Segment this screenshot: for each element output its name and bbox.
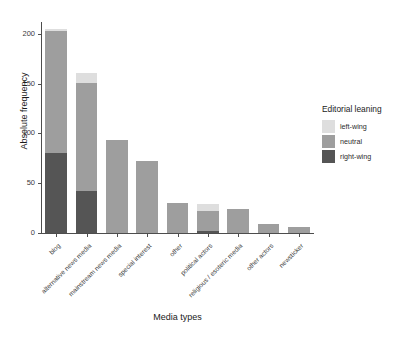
bar-segment-left-wing[interactable]	[76, 73, 98, 83]
legend-item[interactable]: left-wing	[322, 119, 408, 133]
y-axis-title: Absolute frequency	[19, 51, 29, 171]
bar-segment-neutral[interactable]	[136, 161, 158, 233]
legend-label: right-wing	[340, 152, 371, 161]
legend-swatch	[322, 135, 335, 148]
x-tick-mark	[269, 234, 270, 237]
bar-segment-right-wing[interactable]	[45, 153, 67, 233]
legend-items: left-wingneutralright-wing	[322, 119, 408, 163]
figure: 050100150200 Absolute frequency Media ty…	[0, 0, 409, 347]
bar-series-container	[41, 22, 314, 233]
legend-label: left-wing	[340, 122, 367, 131]
bar-segment-left-wing[interactable]	[45, 29, 67, 31]
bar-segment-neutral[interactable]	[167, 203, 189, 233]
bar-segment-neutral[interactable]	[227, 209, 249, 233]
bar-segment-neutral[interactable]	[197, 211, 219, 231]
x-tick-mark	[147, 234, 148, 237]
y-tick-mark	[38, 233, 41, 234]
x-tick-mark	[56, 234, 57, 237]
x-tick-mark	[299, 234, 300, 237]
legend: Editorial leaning left-wingneutralright-…	[322, 104, 408, 164]
bar-segment-right-wing[interactable]	[76, 191, 98, 233]
bar-stack[interactable]	[45, 22, 67, 233]
bar-segment-neutral[interactable]	[45, 31, 67, 153]
bar-stack[interactable]	[167, 22, 189, 233]
bar-stack[interactable]	[258, 22, 280, 233]
bar-segment-neutral[interactable]	[288, 227, 310, 233]
y-tick-label: 0	[9, 229, 35, 237]
y-tick-label: 50	[9, 179, 35, 187]
x-tick-mark	[238, 234, 239, 237]
legend-item[interactable]: neutral	[322, 134, 408, 148]
legend-swatch	[322, 120, 335, 133]
x-tick-mark	[117, 234, 118, 237]
bar-segment-neutral[interactable]	[106, 140, 128, 233]
y-tick-label: 200	[9, 30, 35, 38]
x-tick-mark	[178, 234, 179, 237]
bar-segment-neutral[interactable]	[76, 83, 98, 191]
bar-stack[interactable]	[227, 22, 249, 233]
legend-title: Editorial leaning	[322, 104, 408, 114]
figure-caption	[0, 338, 409, 347]
bar-stack[interactable]	[288, 22, 310, 233]
legend-item[interactable]: right-wing	[322, 149, 408, 163]
bar-segment-right-wing[interactable]	[197, 231, 219, 233]
x-tick-mark	[87, 234, 88, 237]
x-tick-mark	[208, 234, 209, 237]
legend-label: neutral	[340, 137, 362, 146]
legend-swatch	[322, 150, 335, 163]
bar-stack[interactable]	[106, 22, 128, 233]
bar-stack[interactable]	[76, 22, 98, 233]
bar-stack[interactable]	[197, 22, 219, 233]
bar-segment-left-wing[interactable]	[197, 204, 219, 211]
bar-stack[interactable]	[136, 22, 158, 233]
bar-segment-neutral[interactable]	[258, 224, 280, 233]
